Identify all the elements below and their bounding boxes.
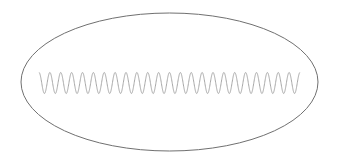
diagram-canvas xyxy=(0,0,337,163)
outer-ellipse xyxy=(21,13,318,151)
sine-wave xyxy=(39,73,300,94)
